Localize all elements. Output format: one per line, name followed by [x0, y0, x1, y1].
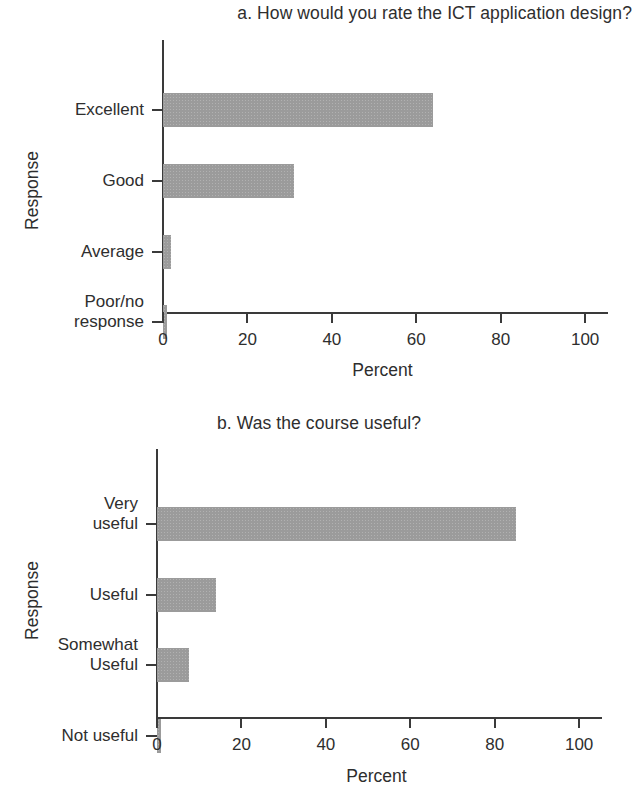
- x-tick-mark: [156, 717, 158, 728]
- bar-useful: [157, 578, 216, 612]
- y-tick-label: Poor/no response: [14, 292, 144, 332]
- x-tick-mark: [500, 312, 502, 323]
- x-tick-mark: [331, 312, 333, 323]
- chart-b-plot-area: [157, 455, 596, 717]
- y-tick-label: Not useful: [8, 726, 138, 746]
- chart-b-title: b. Was the course useful?: [0, 413, 638, 434]
- x-tick-label: 60: [407, 330, 426, 350]
- x-tick-mark: [409, 717, 411, 728]
- y-tick-label: Excellent: [14, 100, 144, 120]
- x-tick-label: 80: [491, 330, 510, 350]
- y-tick-mark: [146, 594, 157, 596]
- chart-a-title: a. How would you rate the ICT applicatio…: [0, 3, 638, 24]
- bar-row: [163, 235, 602, 269]
- x-tick-label: 60: [401, 735, 420, 755]
- y-tick-label: Good: [14, 171, 144, 191]
- x-tick-mark: [415, 312, 417, 323]
- x-tick-mark: [246, 312, 248, 323]
- x-tick-mark: [240, 717, 242, 728]
- x-tick-label: 100: [565, 735, 593, 755]
- x-tick-label: 20: [238, 330, 257, 350]
- x-tick-mark: [578, 717, 580, 728]
- bar-average: [163, 235, 171, 269]
- x-tick-label: 40: [316, 735, 335, 755]
- x-tick-label: 0: [158, 330, 167, 350]
- x-tick-label: 20: [232, 735, 251, 755]
- x-tick-label: 100: [571, 330, 599, 350]
- x-tick-label: 40: [322, 330, 341, 350]
- figure-page: a. How would you rate the ICT applicatio…: [0, 0, 638, 797]
- x-tick-mark: [584, 312, 586, 323]
- chart-b-x-axis-title: Percent: [117, 766, 636, 787]
- y-tick-label: Somewhat Useful: [8, 635, 138, 675]
- y-tick-mark: [152, 109, 163, 111]
- chart-a-panel: a. How would you rate the ICT applicatio…: [0, 0, 638, 392]
- bar-row: [163, 305, 602, 339]
- bar-row: [157, 507, 596, 541]
- y-tick-mark: [146, 523, 157, 525]
- y-tick-mark: [152, 180, 163, 182]
- bar-excellent: [163, 93, 433, 127]
- chart-b-bars: [157, 455, 596, 717]
- y-tick-label: Useful: [8, 585, 138, 605]
- y-tick-mark: [146, 664, 157, 666]
- y-tick-label: Average: [14, 242, 144, 262]
- x-tick-mark: [325, 717, 327, 728]
- bar-row: [157, 719, 596, 753]
- bar-good: [163, 164, 294, 198]
- chart-a-x-axis-title: Percent: [123, 360, 638, 381]
- y-tick-label: Very useful: [8, 494, 138, 534]
- bar-row: [157, 578, 596, 612]
- bar-very-useful: [157, 507, 516, 541]
- chart-b-panel: b. Was the course useful? Response Perce…: [0, 405, 638, 797]
- x-tick-mark: [494, 717, 496, 728]
- x-tick-label: 80: [485, 735, 504, 755]
- bar-row: [157, 648, 596, 682]
- chart-a-plot-area: [163, 46, 602, 312]
- x-tick-label: 0: [152, 735, 161, 755]
- bar-row: [163, 93, 602, 127]
- y-tick-mark: [152, 251, 163, 253]
- bar-somewhat-useful: [157, 648, 189, 682]
- chart-a-bars: [163, 46, 602, 312]
- x-tick-mark: [162, 312, 164, 323]
- bar-row: [163, 164, 602, 198]
